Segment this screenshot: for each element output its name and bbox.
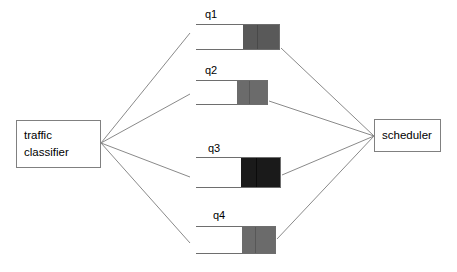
traffic-classifier-node[interactable]: traffic classifier [16,120,101,168]
edge-q4-to-scheduler [277,136,374,239]
queue-caption-q4: q4 [213,209,225,221]
edge-q2-to-scheduler [269,101,374,136]
traffic-classifier-label-line2: classifier [17,144,100,161]
scheduler-label: scheduler [375,127,440,144]
edge-classifier-to-q2 [101,94,190,143]
queue-caption-q2: q2 [205,64,217,76]
edge-q3-to-scheduler [282,136,374,175]
edge-q1-to-scheduler [281,48,374,136]
traffic-classifier-label-line1: traffic [17,127,100,144]
queue-fill-q1 [243,25,279,49]
queue-box-q2[interactable] [196,80,268,105]
edge-classifier-to-q1 [101,33,190,143]
edge-classifier-to-q3 [101,143,190,177]
queue-fill-q4 [242,227,275,253]
queue-box-q3[interactable] [196,157,281,188]
queue-fill-divider-q1 [257,25,258,49]
scheduler-node[interactable]: scheduler [374,119,441,152]
queue-fill-divider-q2 [249,81,250,104]
queue-fill-divider-q3 [256,158,257,187]
queue-fill-divider-q4 [255,227,256,253]
queue-box-q1[interactable] [196,24,280,50]
edge-classifier-to-q4 [101,143,190,243]
queue-caption-q3: q3 [208,142,220,154]
queue-box-q4[interactable] [196,226,276,254]
queue-fill-q2 [237,81,267,104]
diagram-canvas: traffic classifier scheduler q1q2q3q4 [0,0,457,272]
queue-fill-q3 [241,158,280,187]
queue-caption-q1: q1 [205,8,217,20]
